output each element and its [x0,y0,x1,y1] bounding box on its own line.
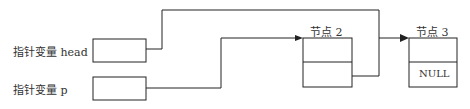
p-link-line [146,38,296,88]
node-3-next-null: NULL [419,68,449,79]
node-3-title: 节点 3 [416,23,449,39]
p-pointer-label: 指针变量 p [13,81,68,97]
arrow-to-node-2-icon [295,35,303,41]
head-link-line [146,10,379,49]
head-pointer-label: 指针变量 head [13,43,88,59]
arrow-to-node-3-icon [400,34,409,42]
head-pointer-box [93,39,146,62]
node-2-title: 节点 2 [310,23,343,39]
p-pointer-box [93,77,146,100]
node-2-next-line [352,38,402,76]
